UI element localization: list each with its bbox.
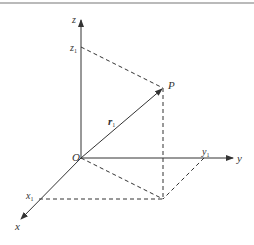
position-vector-r1 xyxy=(81,89,162,158)
point-p-label: P xyxy=(167,79,175,91)
x-axis xyxy=(21,158,81,219)
vector-r1-label: r1 xyxy=(108,115,115,128)
z1-tick-label: z1 xyxy=(69,42,77,54)
y1-tick-label: y1 xyxy=(201,146,209,158)
x1-tick-label: x1 xyxy=(25,190,33,202)
origin-label: O xyxy=(72,151,80,163)
coordinate-diagram: z z1 P r1 O y1 y x1 x xyxy=(0,0,254,245)
z-axis-label: z xyxy=(71,14,76,25)
diagram-canvas: z z1 P r1 O y1 y x1 x xyxy=(0,0,254,245)
x-axis-label: x xyxy=(14,220,20,232)
y-axis-label: y xyxy=(236,152,242,164)
